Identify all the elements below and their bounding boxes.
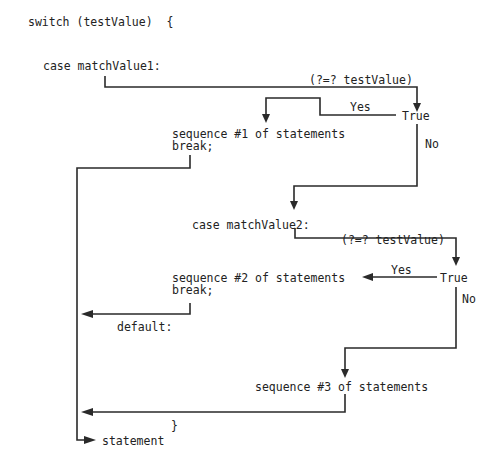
switch-flow-diagram: switch (testValue) { case matchValue1: (… [0, 0, 495, 469]
case1-no-label: No [425, 138, 439, 150]
case1-label: case matchValue1: [43, 60, 161, 72]
case2-condition: (?=? testValue) [341, 234, 445, 246]
after-statement: statement [102, 435, 164, 447]
arrow-head-icon [452, 257, 460, 266]
arrow-head-icon [290, 201, 298, 210]
arrow-head-icon [362, 273, 373, 281]
arrow-head-icon [84, 436, 96, 444]
case1-break-line [77, 155, 190, 440]
case1-yes-label: Yes [350, 101, 371, 113]
case2-true-label: True [440, 272, 468, 284]
default-exit-line [92, 394, 345, 412]
case2-break: break; [172, 284, 214, 296]
case2-no-line [345, 287, 456, 370]
case1-break: break; [172, 140, 214, 152]
case2-yes-label: Yes [391, 264, 412, 276]
default-label: default: [117, 321, 172, 333]
arrow-head-icon [262, 114, 270, 123]
case1-condition: (?=? testValue) [309, 74, 413, 86]
case2-no-label: No [462, 293, 476, 305]
arrow-head-icon [81, 408, 93, 416]
switch-header: switch (testValue) { [28, 16, 173, 28]
case2-break-line [92, 303, 190, 314]
case2-label: case matchValue2: [192, 219, 310, 231]
case1-yes-line [266, 98, 396, 115]
default-body: sequence #3 of statements [255, 381, 428, 393]
case1-true-label: True [402, 110, 430, 122]
arrow-head-icon [81, 310, 93, 318]
arrow-head-icon [341, 369, 349, 378]
closing-brace: } [171, 420, 178, 432]
